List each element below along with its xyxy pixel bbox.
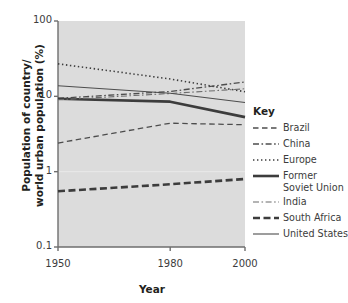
legend: Key BrazilChinaEuropeFormer Soviet Union… — [253, 105, 348, 244]
legend-line-swatch — [253, 170, 279, 182]
legend-item-label: China — [283, 138, 310, 150]
legend-line-swatch — [253, 228, 279, 240]
legend-title: Key — [253, 105, 348, 117]
legend-item: United States — [253, 228, 348, 241]
legend-items: BrazilChinaEuropeFormer Soviet UnionIndi… — [253, 122, 348, 241]
legend-line-swatch — [253, 196, 279, 208]
legend-item: South Africa — [253, 212, 348, 225]
legend-item-label: Former Soviet Union — [283, 170, 344, 193]
legend-item: Europe — [253, 154, 348, 167]
legend-line-swatch — [253, 154, 279, 166]
legend-item-label: Brazil — [283, 122, 310, 134]
legend-item: China — [253, 138, 348, 151]
legend-item: Brazil — [253, 122, 348, 135]
plot-background — [58, 21, 245, 247]
legend-line-swatch — [253, 138, 279, 150]
legend-item-label: India — [283, 196, 307, 208]
legend-item-label: United States — [283, 228, 348, 240]
chart-figure: Population of country/ world urban popul… — [0, 0, 348, 303]
legend-line-swatch — [253, 122, 279, 134]
legend-item: Former Soviet Union — [253, 170, 348, 193]
legend-item-label: South Africa — [283, 212, 341, 224]
legend-line-swatch — [253, 212, 279, 224]
legend-item: India — [253, 196, 348, 209]
legend-item-label: Europe — [283, 154, 317, 166]
